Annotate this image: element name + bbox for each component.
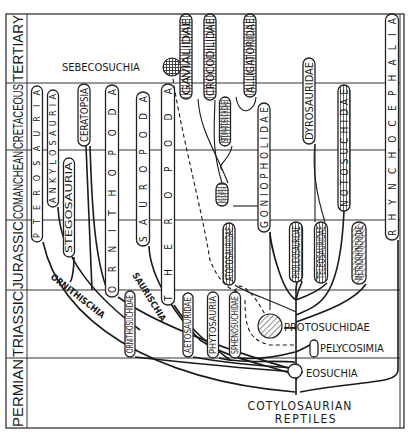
taxon-ornithosuchidae: ORNITHOSUCHIDAE	[125, 291, 135, 357]
pelycosimia-marker	[310, 340, 318, 357]
taxon-aetosauridae: AETOSAURIDAE	[183, 293, 193, 357]
taxon-sphenosuchidae: SPHENOSUCHIDAE	[230, 292, 241, 358]
taxon-phytosauria: PHYTOSAURIA	[208, 292, 219, 358]
label-eosuchia: EOSUCHIA	[306, 367, 358, 380]
taxon-crocodilidae: CROCODILIDAE	[204, 14, 216, 100]
label-protosuchidae: PROTOSUCHIDAE	[284, 321, 370, 334]
taxon-theropoda: THEROPODA	[162, 84, 175, 305]
label-sebecosuchia: SEBECOSUCHIA	[62, 61, 140, 74]
taxon-label: PHYTOSAURIA	[208, 296, 218, 354]
label-pelycosimia: PELYCOSIMIA	[320, 342, 384, 355]
taxon-teleosauridae: TELEOSAURIDAE	[315, 222, 328, 283]
taxon-label: THEROPODA	[163, 87, 174, 302]
period-label-cretaceous: CRETACEOUS	[9, 84, 26, 149]
branch-label-ornithischia: ORNITHISCHIA	[49, 272, 108, 321]
taxon-label: SAUROPODA	[138, 95, 149, 242]
period-label-jurassic: JURASSIC	[9, 221, 26, 289]
taxon-pterosauria: PTEROSAURIA	[32, 86, 43, 242]
taxon-alligatoridae: ALLIGATORIDAE	[244, 14, 256, 97]
eosuchia-marker	[288, 364, 302, 378]
taxon-ornithopoda: ORNITHOPODA	[106, 85, 119, 297]
period-label-permian: PERMIAN	[9, 359, 26, 427]
taxon-label: ALLIGATORIDAE	[245, 18, 256, 93]
taxon-label: CERATOPSIA	[79, 87, 90, 142]
phylogeny-diagram: TERTIARYCRETACEOUSCOMANCHEANJURASSICTRIA…	[0, 0, 409, 435]
taxon-rhynchocephalia: RHYNCHOCEPHALIA	[386, 14, 399, 240]
taxon-gavialidae: GAVIALIDAE	[180, 14, 192, 99]
taxon-ceratopsia: CERATOPSIA	[78, 84, 90, 146]
taxon-metriorhynchidae: METRIORHYNCHIDAE	[352, 222, 366, 284]
taxon-label: AETOSAURIDAE	[184, 297, 193, 353]
sebecosuchia-marker	[163, 58, 181, 76]
taxon-sauropoda: SAUROPODA	[137, 92, 150, 246]
root-label-line2: REPTILES	[275, 412, 337, 426]
period-label-tertiary: TERTIARY	[9, 15, 26, 82]
taxon-label: SPHENOSUCHIDAE	[230, 296, 240, 354]
taxon-label: HYLAEOCHAMPSIDAE	[217, 187, 228, 202]
taxon-label: STOMATOSUCHIDAE	[220, 101, 230, 142]
taxon-label: GAVIALIDAE	[181, 18, 192, 95]
taxon-label: STEGOSAURIA	[64, 161, 74, 253]
taxon-label: TELEOSAURIDAE	[316, 226, 327, 280]
taxon-hylaeochampsidae: HYLAEOCHAMPSIDAE	[216, 183, 228, 206]
taxon-stegosauria: STEGOSAURIA	[64, 158, 75, 257]
taxon-label: RHYNCHOCEPHALIA	[387, 17, 398, 236]
taxon-label: METRIORHYNCHIDAE	[354, 226, 365, 280]
taxon-ankylosauria: ANKYLOSAURIA	[48, 90, 59, 207]
diagram-canvas: TERTIARYCRETACEOUSCOMANCHEANJURASSICTRIA…	[0, 0, 409, 435]
taxon-label: ORNITHOSUCHIDAE	[126, 295, 135, 353]
taxon-stomatosuchidae: STOMATOSUCHIDAE	[220, 97, 231, 146]
taxon-atoposauridae: ATOPOSAURIDAE	[223, 223, 235, 285]
period-label-triassic: TRIASSIC	[9, 291, 26, 357]
taxon-pholidosauridae: PHOLIDOSAURIDAE	[290, 222, 303, 282]
protosuchidae-marker	[258, 314, 282, 338]
taxon-label: PHOLIDOSAURIDAE	[291, 226, 302, 278]
taxon-label: CROCODILIDAE	[205, 18, 216, 96]
root-label-line1: COTYLOSAURIAN	[248, 399, 353, 413]
taxon-goniopholidae: GONIOPHOLIDAE	[258, 103, 270, 232]
taxon-notosuchidae: NOTOSUCHIDAE	[338, 85, 350, 211]
taxon-label: DYROSAURIDAE	[304, 62, 315, 140]
taxon-label: ATOPOSAURIDAE	[224, 227, 235, 281]
taxon-dyrosauridae: DYROSAURIDAE	[303, 58, 315, 144]
period-label-comanchean: COMANCHEAN	[9, 151, 26, 219]
